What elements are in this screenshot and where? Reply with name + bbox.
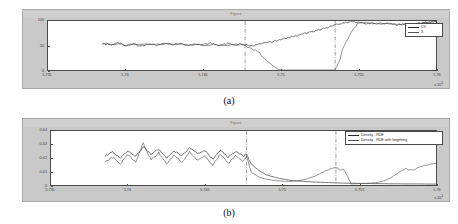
x-tick-mark	[437, 184, 438, 186]
legend-item: Density - RDE with forgetting	[348, 138, 440, 143]
x-tick-label: 5.745	[191, 73, 215, 77]
x-tick-mark	[360, 184, 361, 186]
legend-line-icon	[408, 32, 419, 33]
plot-area-a	[47, 20, 437, 71]
series-line	[105, 147, 436, 184]
panel-b: Figure 0.040.030.020.010 5.7355.745.7455…	[0, 110, 458, 224]
y-tick-label: 50	[23, 44, 44, 48]
legend-line-icon	[408, 27, 419, 28]
legend-label: Density - RDE with forgetting	[361, 138, 407, 143]
x-tick-mark	[50, 184, 51, 186]
y-tick-mark	[48, 46, 50, 47]
y-tick-mark	[48, 20, 50, 21]
figure-titlebar-b: Figure	[23, 119, 449, 127]
x-tick-mark	[203, 69, 204, 71]
x-axis-exponent-sup-b: 4	[441, 194, 443, 198]
x-tick-label: 5.74	[113, 73, 137, 77]
y-tick-mark	[51, 144, 53, 145]
legend-item: X	[408, 30, 440, 35]
plot-svg-a	[48, 21, 436, 70]
x-axis-exponent-b: x 104	[434, 194, 443, 200]
x-tick-label: 5.75	[270, 188, 294, 192]
x-tick-label: 5.755	[348, 188, 372, 192]
series-line	[102, 21, 436, 46]
panel-a: Figure 100500 5.7355.745.7455.755.7555.7…	[0, 0, 458, 112]
y-tick-label: 0.04	[23, 128, 47, 132]
x-tick-mark	[437, 69, 438, 71]
legend-line-icon	[348, 135, 359, 136]
legend-a: CV X	[405, 23, 443, 37]
x-tick-mark	[281, 69, 282, 71]
x-tick-mark	[47, 69, 48, 71]
x-tick-label: 5.735	[38, 188, 62, 192]
series-line	[105, 143, 436, 184]
caption-b: (b)	[0, 207, 458, 218]
legend-b: Density - RDE Density - RDE with forgett…	[345, 131, 443, 145]
x-tick-mark	[127, 184, 128, 186]
y-tick-label: 100	[23, 18, 44, 22]
x-tick-mark	[282, 184, 283, 186]
x-tick-mark	[359, 69, 360, 71]
y-tick-label: 0.03	[23, 142, 47, 146]
y-tick-mark	[48, 71, 50, 72]
y-tick-label: 0.01	[23, 170, 47, 174]
x-tick-label: 5.755	[347, 73, 371, 77]
x-axis-exponent-a: x 104	[434, 81, 443, 87]
x-tick-label: 5.745	[193, 188, 217, 192]
series-line	[102, 21, 436, 70]
y-tick-label: 0.02	[23, 156, 47, 160]
legend-label: X	[421, 30, 423, 35]
x-tick-label: 5.735	[35, 73, 59, 77]
y-tick-mark	[51, 130, 53, 131]
figure-container: Figure 100500 5.7355.745.7455.755.7555.7…	[0, 0, 458, 224]
legend-line-icon	[348, 140, 359, 141]
x-tick-mark	[125, 69, 126, 71]
x-tick-label: 5.76	[425, 188, 449, 192]
figure-window-a: Figure 100500 5.7355.745.7455.755.7555.7…	[22, 9, 450, 89]
y-tick-mark	[51, 172, 53, 173]
x-tick-mark	[205, 184, 206, 186]
x-tick-label: 5.75	[269, 73, 293, 77]
figure-titlebar-a: Figure	[23, 10, 449, 18]
x-tick-label: 5.74	[115, 188, 139, 192]
figure-window-b: Figure 0.040.030.020.010 5.7355.745.7455…	[22, 118, 450, 202]
y-tick-mark	[51, 186, 53, 187]
y-tick-mark	[51, 158, 53, 159]
caption-a: (a)	[0, 95, 458, 106]
x-tick-label: 5.76	[425, 73, 449, 77]
x-axis-exponent-sup-a: 4	[441, 81, 443, 85]
